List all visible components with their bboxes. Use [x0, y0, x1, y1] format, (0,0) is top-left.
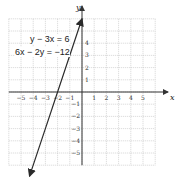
- svg-text:3: 3: [85, 51, 89, 58]
- svg-text:−1: −1: [71, 100, 80, 107]
- svg-text:2: 2: [85, 64, 89, 71]
- svg-text:−2: −2: [71, 112, 80, 119]
- svg-text:−5: −5: [17, 94, 26, 101]
- equation-label-1: y − 3x = 6: [30, 34, 70, 44]
- svg-text:4: 4: [129, 94, 133, 101]
- svg-text:1: 1: [92, 94, 96, 101]
- svg-text:−4: −4: [71, 137, 80, 144]
- svg-text:y: y: [75, 3, 81, 12]
- coordinate-plane: xy −5−4−3−2−1123454321−1−2−3−4−5: [0, 0, 178, 177]
- svg-text:1: 1: [85, 76, 89, 83]
- svg-text:x: x: [170, 93, 175, 102]
- svg-text:−5: −5: [71, 149, 80, 156]
- svg-text:3: 3: [117, 94, 121, 101]
- svg-text:−3: −3: [71, 125, 80, 132]
- svg-text:5: 5: [141, 94, 145, 101]
- svg-text:4: 4: [85, 39, 89, 46]
- svg-text:−4: −4: [29, 94, 38, 101]
- equation-label-2: 6x − 2y = −12: [15, 47, 70, 57]
- svg-text:−3: −3: [41, 94, 50, 101]
- svg-text:2: 2: [104, 94, 108, 101]
